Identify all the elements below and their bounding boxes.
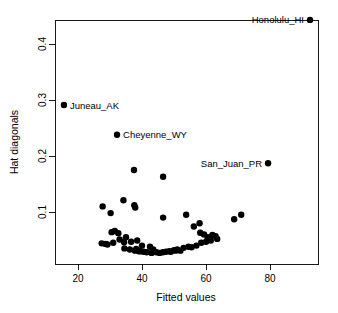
data-point (172, 247, 178, 253)
data-point (231, 216, 237, 222)
data-point (114, 132, 120, 138)
annotation-label: Juneau_AK (70, 100, 120, 111)
data-point (307, 17, 313, 23)
data-point (265, 160, 271, 166)
data-point (121, 245, 127, 251)
x-axis-title: Fitted values (156, 291, 216, 303)
data-point (121, 239, 127, 245)
annotation-label: Cheyenne_WY (123, 129, 188, 140)
data-point (196, 220, 202, 226)
data-point (110, 240, 116, 246)
data-point (104, 241, 110, 247)
x-tick-label: 80 (264, 273, 276, 284)
annotation-label: Honolulu_HI (252, 14, 304, 25)
data-point (134, 237, 140, 243)
scatter-plot-figure: 20406080 0.10.20.30.4 Fitted values Hat … (0, 0, 338, 313)
data-point (201, 231, 207, 237)
data-point (191, 223, 197, 229)
x-tick-label: 20 (72, 273, 84, 284)
data-point (132, 204, 138, 210)
x-tick-label: 60 (200, 273, 212, 284)
y-tick-label: 0.3 (37, 93, 48, 107)
data-point (99, 203, 105, 209)
plot-canvas: 20406080 0.10.20.30.4 Fitted values Hat … (0, 0, 338, 313)
data-point (120, 197, 126, 203)
data-point (183, 212, 189, 218)
data-point (107, 210, 113, 216)
data-point (61, 102, 67, 108)
y-tick-label: 0.2 (37, 149, 48, 163)
x-tick-label: 40 (136, 273, 148, 284)
y-tick-label: 0.1 (37, 205, 48, 219)
figure-background (0, 0, 338, 313)
data-point (128, 238, 134, 244)
data-point (137, 248, 143, 254)
data-point (131, 167, 137, 173)
y-axis-title: Hat diagonals (8, 110, 20, 174)
data-point (160, 214, 166, 220)
data-point (160, 174, 166, 180)
y-tick-label: 0.4 (37, 37, 48, 51)
data-point (150, 246, 156, 252)
data-point (208, 237, 214, 243)
data-point (214, 236, 220, 242)
data-point (238, 212, 244, 218)
data-point (115, 230, 121, 236)
data-point (139, 242, 145, 248)
annotation-label: San_Juan_PR (201, 158, 262, 169)
